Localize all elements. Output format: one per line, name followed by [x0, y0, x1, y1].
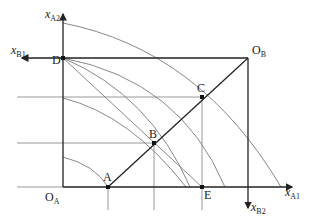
- label-x-b2: xB2: [250, 200, 266, 216]
- label-b: B: [149, 127, 157, 141]
- point-d: [61, 56, 65, 60]
- label-c: C: [197, 81, 205, 95]
- label-e: E: [204, 188, 211, 202]
- label-d: D: [52, 53, 61, 67]
- label-x-b1: xB1: [10, 43, 26, 59]
- curve-through-c: [63, 58, 225, 187]
- label-x-a1: xA1: [284, 185, 300, 201]
- curve-middle: [63, 58, 190, 187]
- curve-through-b: [63, 98, 186, 187]
- label-x-a2: xA2: [44, 7, 60, 23]
- label-o-a: OA: [45, 190, 60, 206]
- edgeworth-box-diagram: D A B C E OB OA xA2 xB1 xA1 xB2: [0, 0, 309, 219]
- line-d-e: [63, 58, 202, 187]
- label-o-b: OB: [252, 43, 266, 59]
- point-c: [200, 95, 204, 99]
- point-b: [152, 141, 156, 145]
- contract-line: [108, 58, 248, 187]
- point-a: [106, 185, 110, 189]
- curve-through-a: [63, 157, 108, 187]
- label-a: A: [103, 170, 112, 184]
